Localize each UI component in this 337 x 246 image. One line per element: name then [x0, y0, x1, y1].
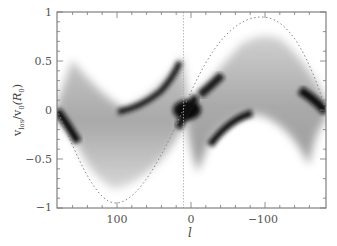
- x-tick-label: 0: [188, 213, 195, 226]
- y-tick-label: 0: [45, 104, 52, 117]
- y-tick-label: −0.5: [25, 153, 52, 166]
- y-tick-label: 1: [45, 6, 52, 19]
- x-tick-label: −100: [248, 213, 278, 226]
- x-tick-label: 100: [107, 213, 128, 226]
- lv-diagram-chart: 1 0.5 0 −0.5 −1 100 0 −100 l vlos/v0(R0): [0, 0, 337, 246]
- y-tick-label: 0.5: [35, 55, 53, 68]
- svg-text:vlos/v0(R0): vlos/v0(R0): [11, 84, 26, 137]
- y-label-paren-r: (R: [11, 93, 24, 106]
- y-label-sub-los: los: [18, 119, 26, 129]
- y-tick-label: −1: [36, 201, 52, 214]
- y-axis-label: vlos/v0(R0): [11, 84, 26, 137]
- density-map: [57, 36, 326, 188]
- y-label-close-paren: ): [11, 84, 24, 88]
- x-axis-label: l: [188, 226, 192, 240]
